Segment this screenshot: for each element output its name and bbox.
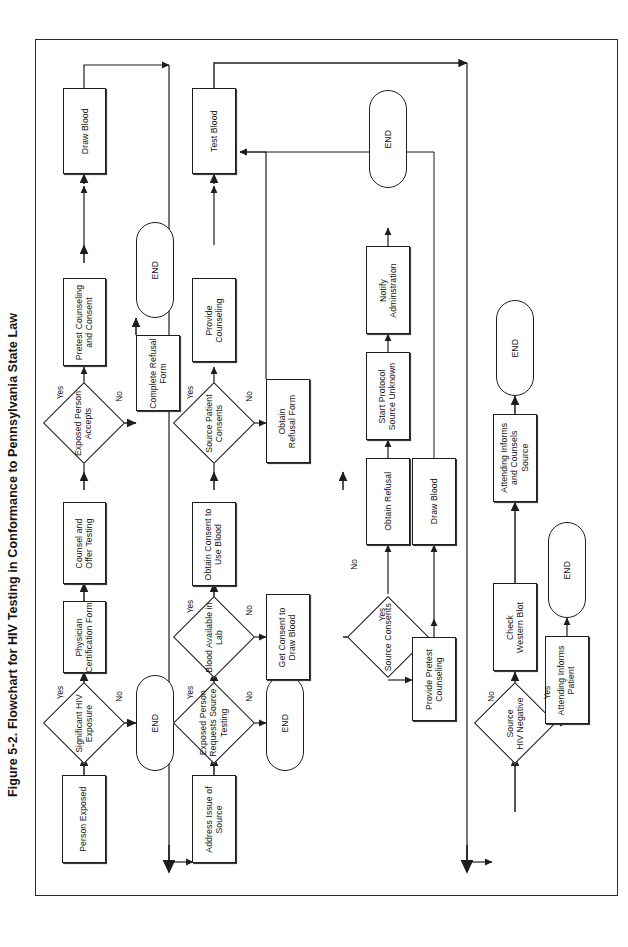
node-label: Draw Blood — [79, 108, 89, 154]
node-label: END — [280, 714, 290, 733]
node-label: PhysicianCertification Form — [74, 602, 95, 673]
edge-label-yes-blood-available: Yes — [184, 602, 197, 611]
node-label: Source PatientConsents — [204, 394, 225, 452]
node-label: ProvideCounseling — [204, 298, 225, 343]
edge-label-no-source-patient-consents: No — [244, 392, 254, 401]
edge-label-no-significant-hiv: No — [114, 692, 124, 701]
node-label: END — [150, 714, 160, 733]
node-label: Person Exposed — [79, 786, 89, 851]
edge-label-no-exposed-accepts: No — [114, 392, 124, 401]
node-label: Counsel andOffer Testing — [74, 518, 95, 568]
node-label: Exposed PersonAccepts — [74, 390, 95, 455]
node-provide-pretest-counseling[interactable]: Provide PretestCounseling — [412, 637, 456, 721]
node-label: NotifyAdminstration — [378, 263, 399, 318]
node-label: END — [383, 130, 393, 149]
node-draw-blood-1[interactable]: Draw Blood — [63, 88, 106, 174]
node-start-protocol-source-unknown[interactable]: Start ProtocolSource Unknown — [366, 352, 410, 440]
node-label: Address Issue ofSource — [204, 786, 225, 852]
node-address-issue-of-source[interactable]: Address Issue ofSource — [192, 775, 236, 863]
node-get-consent-to-draw-blood[interactable]: Get Consent toDraw Blood — [266, 594, 310, 680]
node-label: Pretest Counselingand Consent — [74, 284, 95, 359]
node-attending-informs-patient[interactable]: Attending InformsPatient — [545, 636, 589, 724]
node-end-5[interactable]: END — [496, 300, 534, 396]
node-label: ObtainRefusal Form — [278, 394, 299, 447]
edge-label-yes-significant-hiv: Yes — [54, 688, 67, 697]
node-test-blood[interactable]: Test Blood — [192, 88, 236, 174]
node-draw-blood-2[interactable]: Draw Blood — [412, 458, 456, 545]
node-provide-counseling[interactable]: ProvideCounseling — [192, 278, 236, 362]
node-end-3[interactable]: END — [266, 675, 304, 771]
node-label: END — [510, 339, 520, 358]
node-notify-administration[interactable]: NotifyAdminstration — [366, 246, 410, 334]
node-end-2[interactable]: END — [136, 222, 174, 318]
node-obtain-refusal-form[interactable]: ObtainRefusal Form — [266, 379, 310, 463]
node-label: Start ProtocolSource Unknown — [378, 362, 399, 430]
node-obtain-consent-to-use-blood[interactable]: Obtain Consent toUse Blood — [192, 502, 236, 586]
edge-label-no-source-hiv-negative: No — [486, 692, 496, 701]
edge-label-no-source-consents: No — [349, 560, 359, 569]
node-check-western-blot[interactable]: CheckWestern Blot — [493, 583, 537, 671]
node-label: Exposed PersonRequests SourceTesting — [198, 689, 229, 757]
node-label: SourceHIV Negative — [505, 697, 526, 749]
node-complete-refusal-form[interactable]: Complete RefusalForm — [136, 335, 180, 411]
node-label: Draw Blood — [429, 479, 439, 525]
figure-page: Figure 5-2. Flowchart for HIV Testing in… — [0, 0, 628, 947]
edge-label-yes-requests-source: Yes — [184, 688, 197, 697]
node-label: Blood Available inLab — [204, 602, 225, 672]
edge-label-yes-source-patient-consents: Yes — [184, 388, 197, 397]
node-label: Complete RefusalForm — [148, 338, 169, 409]
edge-label-yes-exposed-accepts: Yes — [54, 388, 67, 397]
node-label: Source Consents — [383, 603, 393, 671]
edge-label-no-blood-available: No — [244, 606, 254, 615]
figure-caption: Figure 5-2. Flowchart for HIV Testing in… — [0, 0, 26, 947]
node-attending-informs-and-counsels-source[interactable]: Attending Informsand CounselsSource — [493, 414, 537, 502]
node-pretest-counseling-and-consent[interactable]: Pretest Counselingand Consent — [63, 278, 106, 366]
node-end-1[interactable]: END — [136, 675, 174, 771]
node-person-exposed[interactable]: Person Exposed — [62, 775, 106, 863]
node-label: Get Consent toDraw Blood — [278, 607, 299, 667]
node-label: Significant HIVExposure — [74, 694, 95, 753]
node-counsel-and-offer-testing[interactable]: Counsel andOffer Testing — [63, 502, 106, 584]
node-label: CheckWestern Blot — [505, 602, 526, 653]
edge-label-no-requests-source: No — [244, 692, 254, 701]
node-physician-certification-form[interactable]: PhysicianCertification Form — [63, 601, 106, 673]
node-end-4[interactable]: END — [369, 90, 407, 188]
node-label: END — [562, 561, 572, 580]
edge-label-yes-source-hiv-negative: Yes — [541, 688, 554, 697]
node-label: Obtain Refusal — [383, 472, 393, 531]
node-label: Attending Informsand CounselsSource — [499, 423, 530, 493]
node-label: Test Blood — [209, 110, 219, 152]
node-label: Provide PretestCounseling — [424, 648, 445, 709]
node-obtain-refusal[interactable]: Obtain Refusal — [366, 458, 410, 545]
node-label: Attending InformsPatient — [557, 645, 578, 715]
node-end-6[interactable]: END — [548, 522, 586, 618]
node-label: Obtain Consent toUse Blood — [204, 508, 225, 580]
node-label: END — [150, 261, 160, 280]
